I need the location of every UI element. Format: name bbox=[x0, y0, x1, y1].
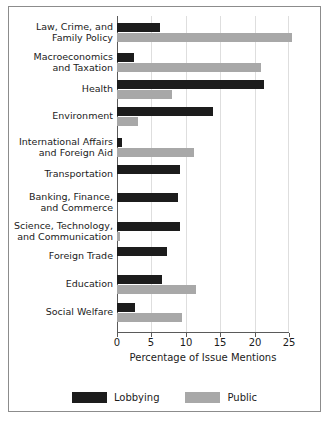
bar-public bbox=[117, 148, 194, 157]
bar-lobbying bbox=[117, 138, 122, 147]
bar-public bbox=[117, 285, 196, 294]
legend-entry-public: Public bbox=[185, 392, 257, 403]
bar-public bbox=[117, 117, 138, 126]
legend-swatch-public bbox=[185, 392, 220, 403]
bar-lobbying bbox=[117, 53, 134, 62]
bar-lobbying bbox=[117, 247, 167, 256]
bar-lobbying bbox=[117, 107, 213, 116]
legend-swatch-lobbying bbox=[72, 392, 107, 403]
bar-chart-figure: 0 5 10 15 20 25 Percentage of Issue Ment… bbox=[0, 0, 329, 424]
bar-lobbying bbox=[117, 222, 180, 231]
bar-public bbox=[117, 232, 120, 241]
legend-label-public: Public bbox=[227, 392, 257, 403]
bar-lobbying bbox=[117, 193, 178, 202]
bars-layer bbox=[0, 0, 329, 424]
bar-lobbying bbox=[117, 165, 180, 174]
bar-lobbying bbox=[117, 80, 264, 89]
chart-legend: Lobbying Public bbox=[8, 386, 321, 408]
bar-lobbying bbox=[117, 303, 135, 312]
legend-entry-lobbying: Lobbying bbox=[72, 392, 160, 403]
legend-label-lobbying: Lobbying bbox=[114, 392, 160, 403]
bar-public bbox=[117, 313, 182, 322]
bar-lobbying bbox=[117, 23, 160, 32]
bar-lobbying bbox=[117, 275, 162, 284]
bar-public bbox=[117, 33, 292, 42]
bar-public bbox=[117, 90, 172, 99]
bar-public bbox=[117, 63, 261, 72]
